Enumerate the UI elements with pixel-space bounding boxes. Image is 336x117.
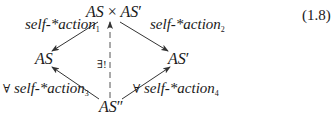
label-action-2: self-*action2 <box>150 16 225 38</box>
node-bottom: AS″ <box>99 98 123 115</box>
node-right-text: AS <box>168 50 186 67</box>
label-unique-exists: ∃! <box>97 56 107 72</box>
node-bottom-text: AS <box>99 98 117 115</box>
times-symbol: × <box>108 3 117 20</box>
label-action-2-text: self-*action <box>150 16 221 32</box>
label-action-4-sub: 4 <box>215 89 219 98</box>
double-prime-mark: ″ <box>117 98 124 115</box>
label-action-4-text: self-*action <box>144 80 215 96</box>
forall-symbol: ∀ <box>3 82 10 96</box>
label-action-4: ∀ self-*action4 <box>133 80 219 102</box>
prime-mark: ′ <box>186 50 190 67</box>
equation-number: (1.8) <box>302 7 331 23</box>
node-right: AS′ <box>168 50 189 67</box>
node-left: AS <box>35 50 53 67</box>
label-action-1: self-*action1 <box>25 16 100 38</box>
label-action-3-text: self-*action <box>14 80 85 96</box>
node-product-right: AS <box>121 3 139 20</box>
prime-mark: ′ <box>138 3 142 20</box>
label-action-2-sub: 2 <box>221 25 225 34</box>
label-action-3-sub: 3 <box>85 89 89 98</box>
label-action-3: ∀ self-*action3 <box>3 80 89 102</box>
forall-symbol: ∀ <box>133 82 140 96</box>
label-action-1-sub: 1 <box>96 25 100 34</box>
label-action-1-text: self-*action <box>25 16 96 32</box>
